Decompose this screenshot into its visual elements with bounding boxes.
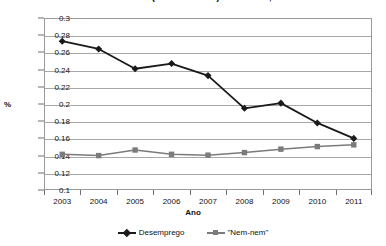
y-axis-tick-mark <box>38 52 44 53</box>
x-axis-title: Ano <box>0 208 386 217</box>
gridline <box>45 174 371 175</box>
gridline <box>45 157 371 158</box>
x-axis-tick-mark <box>80 190 81 195</box>
x-axis-tick-label: 2011 <box>345 197 362 206</box>
gridline <box>45 53 371 54</box>
x-axis-tick-label: 2005 <box>126 197 144 206</box>
y-axis-tick-label: 0.18 <box>4 117 70 126</box>
gridline <box>45 88 371 89</box>
gridline <box>45 105 371 106</box>
y-axis-tick-mark <box>38 104 44 105</box>
x-axis-tick-mark <box>263 190 264 195</box>
y-axis-tick-label: 0.24 <box>4 65 70 74</box>
gridline <box>45 139 371 140</box>
y-axis-tick-mark <box>38 172 44 173</box>
y-axis-tick-mark <box>38 86 44 87</box>
legend-item-nemnem[interactable]: "Nem-nem" <box>207 228 269 237</box>
x-axis-tick-label: 2009 <box>272 197 290 206</box>
chart-title: ENTRE OS PAIS (14 A 22 ANOS) — BRASIL, 2… <box>0 0 386 2</box>
x-axis-tick-label: 2004 <box>90 197 108 206</box>
gridline <box>45 36 371 37</box>
y-axis-tick-label: 0.1 <box>4 186 70 195</box>
x-axis-tick-mark <box>299 190 300 195</box>
x-axis-tick-mark <box>371 190 372 195</box>
y-axis-tick-mark <box>38 18 44 19</box>
y-axis-tick-label: 0.16 <box>4 134 70 143</box>
x-axis-tick-label: 2006 <box>163 197 181 206</box>
x-axis-tick-mark <box>44 190 45 195</box>
legend-label: "Nem-nem" <box>228 228 269 237</box>
y-axis-tick-mark <box>38 155 44 156</box>
gridline <box>45 71 371 72</box>
y-axis-tick-label: 0.14 <box>4 151 70 160</box>
legend-label: Desemprego <box>139 228 185 237</box>
y-axis-tick-label: 0.28 <box>4 31 70 40</box>
legend-marker-square-icon <box>207 228 225 237</box>
y-axis-tick-mark <box>38 69 44 70</box>
x-axis-tick-label: 2007 <box>199 197 217 206</box>
x-axis-tick-mark <box>153 190 154 195</box>
y-axis-tick-label: 0.22 <box>4 82 70 91</box>
y-axis-tick-label: 0.3 <box>4 14 70 23</box>
x-axis-tick-label: 2003 <box>53 197 71 206</box>
gridline <box>45 122 371 123</box>
plot-area <box>44 18 372 190</box>
y-axis-tick-label: 0.2 <box>4 100 70 109</box>
x-axis-tick-mark <box>336 190 337 195</box>
line-chart: ENTRE OS PAIS (14 A 22 ANOS) — BRASIL, 2… <box>0 0 386 246</box>
y-axis-tick-mark <box>38 138 44 139</box>
x-axis-tick-mark <box>117 190 118 195</box>
x-axis-tick-mark <box>226 190 227 195</box>
y-axis-tick-label: 0.12 <box>4 168 70 177</box>
y-axis-title: % <box>4 100 11 109</box>
x-axis-tick-mark <box>190 190 191 195</box>
legend-marker-diamond-icon <box>118 228 136 237</box>
y-axis-tick-mark <box>38 35 44 36</box>
y-axis-tick-mark <box>38 121 44 122</box>
chart-legend: Desemprego"Nem-nem" <box>0 228 386 237</box>
y-axis-tick-label: 0.26 <box>4 48 70 57</box>
x-axis-tick-label: 2010 <box>308 197 326 206</box>
legend-item-desemprego[interactable]: Desemprego <box>118 228 185 237</box>
x-axis-tick-label: 2008 <box>236 197 254 206</box>
